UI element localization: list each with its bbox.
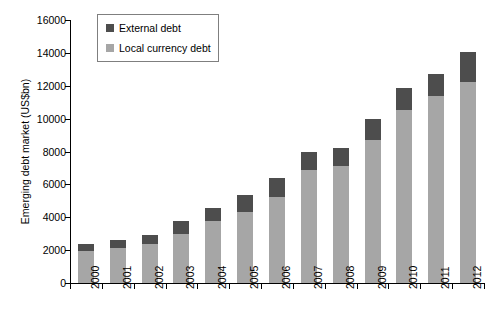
x-axis-tick-label-2003: 2003 (185, 266, 196, 289)
bar-segment-external-debt (460, 52, 476, 82)
x-axis-tick-mark (452, 284, 453, 289)
x-axis-tick-label-2009: 2009 (377, 266, 388, 289)
y-axis-tick-labels: 1600014000120001000080006000400020000 (16, 0, 66, 324)
bar-2008 (333, 148, 349, 283)
y-axis-tick-label: 2000 (22, 245, 66, 256)
legend-item-external-debt: External debt (106, 21, 181, 35)
y-axis-tick-label: 4000 (22, 212, 66, 223)
x-axis-tick-mark (134, 284, 135, 289)
bar-segment-external-debt (333, 148, 349, 166)
x-axis-tick-label-2008: 2008 (345, 266, 356, 289)
x-axis-tick-label-2012: 2012 (472, 266, 483, 289)
bar-2012 (460, 52, 476, 283)
bar-segment-local-currency-debt (365, 140, 381, 283)
x-axis-tick-mark (357, 284, 358, 289)
y-axis-tick-label: 6000 (22, 179, 66, 190)
legend-label-external-debt: External debt (119, 23, 181, 34)
x-axis-tick-mark (388, 284, 389, 289)
legend-item-local-currency-debt: Local currency debt (106, 41, 211, 55)
y-axis-tick-label: 0 (22, 278, 66, 289)
emerging-debt-market-bar-chart: Emerging debt market (US$bn) 16000140001… (0, 0, 491, 324)
x-axis-tick-mark (229, 284, 230, 289)
y-axis-tick-label: 16000 (22, 15, 66, 26)
x-axis-tick-mark (166, 284, 167, 289)
bar-segment-local-currency-debt (396, 110, 412, 283)
x-axis-tick-label-2007: 2007 (313, 266, 324, 289)
external-debt-swatch (106, 24, 114, 32)
bar-segment-local-currency-debt (460, 82, 476, 283)
x-axis-tick-label-2005: 2005 (249, 266, 260, 289)
bar-segment-external-debt (237, 195, 253, 211)
x-axis-tick-label-2010: 2010 (408, 266, 419, 289)
x-axis-tick-label-2002: 2002 (154, 266, 165, 289)
bar-segment-external-debt (396, 88, 412, 110)
legend-label-local-currency-debt: Local currency debt (119, 43, 211, 54)
bar-segment-external-debt (110, 240, 126, 248)
y-axis-tick-label: 10000 (22, 113, 66, 124)
x-axis-tick-mark (484, 284, 485, 289)
bar-segment-external-debt (78, 244, 94, 251)
x-axis-tick-label-2006: 2006 (281, 266, 292, 289)
bar-segment-external-debt (173, 221, 189, 234)
bar-segment-external-debt (269, 178, 285, 197)
bar-segment-external-debt (428, 74, 444, 95)
x-axis-tick-label-2004: 2004 (217, 266, 228, 289)
bar-segment-external-debt (365, 119, 381, 140)
legend: External debt Local currency debt (97, 14, 219, 62)
bar-2009 (365, 119, 381, 283)
x-axis-tick-mark (420, 284, 421, 289)
y-axis-tick-label: 14000 (22, 48, 66, 59)
x-axis-tick-label-2011: 2011 (440, 266, 451, 289)
bar-2007 (301, 152, 317, 284)
local-currency-debt-swatch (106, 44, 114, 52)
y-axis-tick-label: 12000 (22, 81, 66, 92)
x-axis-tick-mark (102, 284, 103, 289)
x-axis-tick-mark (197, 284, 198, 289)
bar-2010 (396, 88, 412, 283)
bar-2011 (428, 74, 444, 283)
x-axis-tick-mark (293, 284, 294, 289)
bar-segment-external-debt (205, 208, 221, 221)
x-axis-tick-mark (325, 284, 326, 289)
y-axis-tick-label: 8000 (22, 146, 66, 157)
bar-segment-external-debt (142, 235, 158, 245)
x-axis-tick-mark (70, 284, 71, 289)
x-axis-tick-mark (261, 284, 262, 289)
x-axis-tick-label-2000: 2000 (90, 266, 101, 289)
x-axis-tick-label-2001: 2001 (122, 266, 133, 289)
bar-segment-local-currency-debt (428, 96, 444, 283)
bar-segment-external-debt (301, 152, 317, 170)
